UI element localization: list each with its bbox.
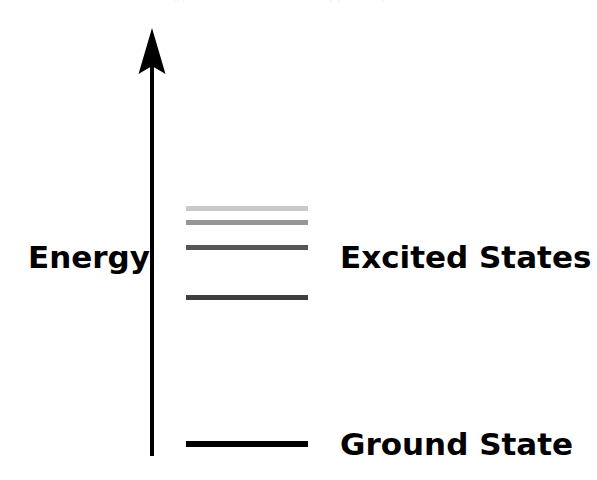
energy-level-excited-2	[186, 245, 308, 250]
energy-axis-shaft	[150, 60, 154, 456]
energy-level-excited-1	[186, 295, 308, 300]
excited-states-label: Excited States	[340, 240, 591, 274]
energy-axis-arrowhead	[139, 28, 166, 74]
energy-axis-label: Energy	[28, 240, 150, 274]
energy-level-excited-3	[186, 220, 308, 225]
energy-level-diagram: Energy levels of an atom (clipped captio…	[0, 0, 597, 480]
top-caption-strip: Energy levels of an atom (clipped captio…	[0, 0, 597, 3]
energy-level-excited-4	[186, 206, 308, 211]
ground-state-label: Ground State	[340, 427, 573, 461]
energy-level-ground	[186, 441, 308, 447]
top-caption-text: Energy levels of an atom (clipped captio…	[143, 0, 419, 2]
